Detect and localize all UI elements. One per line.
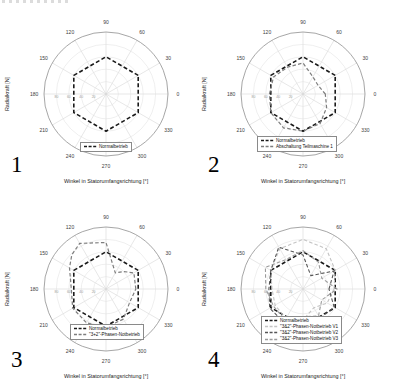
angle-tick-label: 0	[177, 91, 180, 97]
subfigure-number: 2	[208, 153, 220, 176]
angle-tick-label: 150	[40, 55, 49, 61]
legend-entry: Normalbetrieb	[261, 138, 333, 144]
legend-line-sample-icon	[261, 138, 274, 143]
polar-plot-panel-4: 030609012015018021024027030033020406080W…	[197, 195, 394, 391]
angle-tick-label: 60	[336, 29, 342, 35]
angle-tick-label: 330	[361, 127, 370, 133]
legend-line-sample-icon	[265, 337, 278, 342]
angle-tick-label: 330	[164, 127, 173, 133]
legend-line-sample-icon	[265, 318, 278, 323]
legend-line-sample-icon	[261, 144, 274, 149]
legend-label: "3&2"-Phasen-Notbetrieb V3	[280, 336, 338, 342]
angle-tick-label: 120	[66, 224, 75, 230]
radial-tick-label: 60	[67, 290, 71, 294]
legend-label: Abschaltung Teilmaschine 1	[276, 144, 333, 150]
radial-tick-label: 80	[252, 95, 256, 99]
y-axis-label: Radialkraft [N]	[4, 271, 10, 306]
angle-tick-label: 30	[166, 250, 172, 256]
four-polar-plots-figure: 030609012015018021024027030033020406080W…	[0, 0, 394, 391]
angle-tick-label: 270	[102, 163, 111, 169]
polar-plot-panel-3: 030609012015018021024027030033020406080W…	[0, 195, 197, 391]
series-variant-1	[70, 243, 136, 328]
legend-line-sample-icon	[84, 144, 97, 149]
angle-tick-label: 0	[374, 91, 377, 97]
y-axis-label: Radialkraft [N]	[4, 76, 10, 111]
angle-tick-label: 240	[66, 348, 75, 354]
angle-tick-label: 180	[227, 91, 236, 97]
radial-tick-label: 40	[79, 95, 83, 99]
legend-label: Normalbetrieb	[99, 144, 128, 150]
x-axis-label: Winkel in Statorumfangsrichtung [°]	[261, 178, 346, 184]
angle-tick-label: 180	[30, 286, 39, 292]
angle-tick-label: 240	[66, 153, 75, 159]
radial-tick-label: 40	[276, 290, 280, 294]
radial-tick-label: 40	[79, 290, 83, 294]
polar-chart-svg: 030609012015018021024027030033020406080W…	[0, 195, 197, 391]
polar-chart-svg: 030609012015018021024027030033020406080W…	[197, 0, 394, 196]
legend-line-sample-icon	[74, 326, 87, 331]
legend-label: Normalbetrieb	[276, 138, 305, 144]
legend-label: "3&2"-Phasen-Notbetrieb V2	[280, 330, 338, 336]
angle-tick-label: 180	[30, 91, 39, 97]
angle-tick-label: 150	[237, 55, 246, 61]
angle-tick-label: 120	[263, 29, 272, 35]
polar-chart-svg: 030609012015018021024027030033020406080W…	[0, 0, 197, 196]
angle-tick-label: 300	[138, 348, 147, 354]
angle-tick-label: 120	[263, 224, 272, 230]
subfigure-number: 1	[11, 153, 23, 176]
radial-tick-label: 20	[92, 290, 96, 294]
angle-tick-label: 0	[374, 286, 377, 292]
legend-entry: Normalbetrieb	[84, 144, 128, 150]
angle-tick-label: 60	[139, 29, 145, 35]
legend-entry: "3+2"-Phasen-Notbetrieb	[74, 332, 140, 338]
angle-tick-label: 30	[363, 55, 369, 61]
x-axis-label: Winkel in Statorumfangsrichtung [°]	[64, 373, 149, 379]
legend-entry: "3&2"-Phasen-Notbetrieb V3	[265, 336, 338, 342]
angle-tick-label: 270	[299, 163, 308, 169]
legend-label: Normalbetrieb	[89, 326, 118, 332]
angle-tick-label: 300	[335, 348, 344, 354]
subfigure-number: 3	[11, 348, 23, 371]
angle-tick-label: 300	[335, 153, 344, 159]
legend-line-sample-icon	[74, 332, 87, 337]
legend-entry: Abschaltung Teilmaschine 1	[261, 144, 333, 150]
polar-plot-panel-1: 030609012015018021024027030033020406080W…	[0, 0, 197, 196]
angle-tick-label: 150	[40, 250, 49, 256]
polar-grid	[44, 32, 168, 156]
legend-line-sample-icon	[265, 330, 278, 335]
angle-tick-label: 60	[336, 224, 342, 230]
radial-tick-label: 80	[252, 290, 256, 294]
y-axis-label: Radialkraft [N]	[201, 271, 207, 306]
legend-entry: "3&2"-Phasen-Notbetrieb V1	[265, 324, 338, 330]
angle-tick-label: 210	[40, 322, 49, 328]
angle-tick-label: 210	[237, 322, 246, 328]
angle-tick-label: 150	[237, 250, 246, 256]
angle-tick-label: 210	[40, 127, 49, 133]
radial-tick-label: 20	[92, 95, 96, 99]
angle-tick-label: 330	[361, 322, 370, 328]
legend-line-sample-icon	[265, 324, 278, 329]
legend-entry: Normalbetrieb	[74, 326, 140, 332]
angle-tick-label: 180	[227, 286, 236, 292]
angle-tick-label: 270	[299, 358, 308, 364]
radial-tick-label: 20	[289, 290, 293, 294]
subfigure-number: 4	[208, 348, 220, 371]
legend-label: "3&2"-Phasen-Notbetrieb V1	[280, 324, 338, 330]
polar-plot-panel-2: 030609012015018021024027030033020406080W…	[197, 0, 394, 196]
series-variant-3	[265, 251, 337, 321]
radial-tick-label: 60	[264, 95, 268, 99]
legend-box: Normalbetrieb"3&2"-Phasen-Notbetrieb V1"…	[261, 316, 342, 344]
angle-tick-label: 240	[263, 153, 272, 159]
angle-tick-label: 0	[177, 286, 180, 292]
angle-tick-label: 270	[102, 358, 111, 364]
legend-box: Normalbetrieb"3+2"-Phasen-Notbetrieb	[70, 324, 144, 340]
angle-tick-label: 330	[164, 322, 173, 328]
legend-label: "3+2"-Phasen-Notbetrieb	[89, 332, 140, 338]
angle-tick-label: 90	[300, 214, 306, 220]
angle-tick-label: 240	[263, 348, 272, 354]
legend-entry: Normalbetrieb	[265, 318, 338, 324]
legend-label: Normalbetrieb	[280, 318, 309, 324]
polar-chart-svg: 030609012015018021024027030033020406080W…	[197, 195, 394, 391]
angle-tick-label: 90	[103, 19, 109, 25]
radial-tick-label: 20	[289, 95, 293, 99]
